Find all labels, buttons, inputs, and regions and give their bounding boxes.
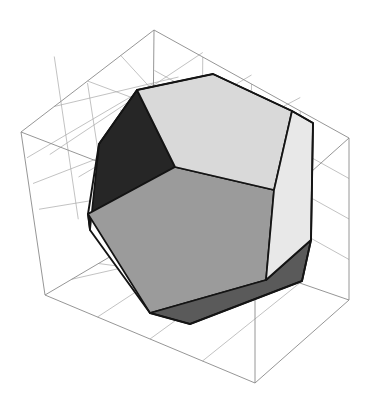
- figure-root: [0, 0, 382, 403]
- dodecahedron-solid: [88, 74, 313, 324]
- dodecahedron-scene: [0, 0, 382, 403]
